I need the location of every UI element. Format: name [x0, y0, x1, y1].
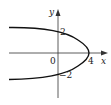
origin-label: 0	[50, 56, 56, 66]
x-intercept-label: 4	[88, 56, 94, 66]
y-axis-arrow-icon	[56, 9, 61, 16]
parabola-curve	[9, 27, 89, 79]
parabola-diagram: y x 0 4 2 −2	[0, 0, 111, 105]
x-axis-label: x	[101, 56, 106, 66]
y-axis-label: y	[48, 7, 55, 17]
y-intercept-top-label: 2	[60, 27, 66, 37]
y-intercept-bottom-label: −2	[59, 70, 72, 80]
x-axis-arrow-icon	[101, 51, 108, 56]
